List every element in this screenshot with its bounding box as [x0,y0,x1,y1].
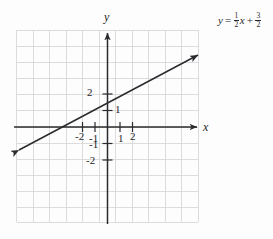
equation-equals: = [223,14,233,26]
intercept-denominator: 2 [255,20,261,29]
x-tick-label--2: -2 [75,131,84,142]
y-tick-label-2: 2 [87,87,93,98]
figure-canvas: y x -2 -1 1 2 2 1 -1 -2 y=12x+32 [0,0,273,239]
intercept-fraction: 32 [255,12,261,28]
x-tick-label-1: 1 [118,133,124,144]
y-tick-label-1: 1 [115,104,121,115]
y-tick-label--1: -1 [89,139,98,150]
equation-annotation: y=12x+32 [218,12,262,28]
x-axis-label: x [203,121,208,133]
coordinate-plane-graphic [0,0,273,239]
y-axis-label: y [104,11,109,23]
intercept-numerator: 3 [255,12,261,20]
equation-plus: + [245,14,255,26]
slope-fraction: 12 [234,12,240,28]
slope-numerator: 1 [234,12,240,20]
slope-denominator: 2 [234,20,240,29]
y-tick-label--2: -2 [86,155,95,166]
plotted-line [19,55,198,150]
x-tick-label-2: 2 [130,131,136,142]
